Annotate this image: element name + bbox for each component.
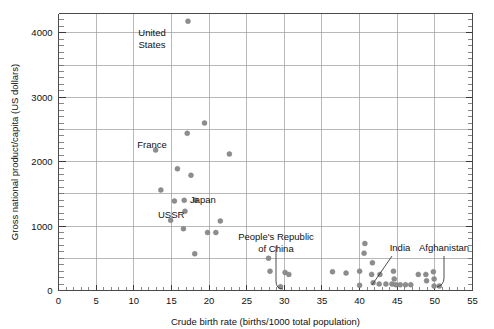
annotation-text-line: Afghanistan (419, 242, 469, 253)
annotation-label: India (390, 242, 411, 253)
annotation-text-line: States (139, 39, 166, 50)
x-tick-label: 10 (128, 295, 139, 306)
data-point (266, 256, 271, 261)
x-tick-label: 35 (317, 295, 328, 306)
data-point (357, 283, 362, 288)
data-point (175, 166, 180, 171)
data-point (185, 131, 190, 136)
data-point (172, 198, 177, 203)
x-axis-title: Crude birth rate (births/1000 total popu… (171, 316, 360, 327)
data-point (182, 198, 187, 203)
data-point (423, 272, 428, 277)
data-point (188, 173, 193, 178)
x-tick-label: 30 (279, 295, 290, 306)
y-tick-label: 4000 (31, 27, 52, 38)
x-tick-label: 45 (392, 295, 403, 306)
data-point (362, 251, 367, 256)
data-point (431, 269, 436, 274)
x-tick-label: 15 (166, 295, 177, 306)
data-point (403, 282, 408, 287)
data-point (383, 282, 388, 287)
y-tick-label: 2000 (31, 156, 52, 167)
data-point (213, 230, 218, 235)
data-point (408, 282, 413, 287)
annotation-text-line: USSR (158, 209, 185, 220)
annotation-label: People's Republicof China (238, 231, 314, 254)
plot-canvas: 051015202530354045505501000200030004000 … (0, 0, 494, 329)
data-point (393, 282, 398, 287)
annotation-text-line: France (137, 139, 167, 150)
annotation-label: UnitedStates (138, 27, 165, 50)
y-tick-label: 1000 (31, 221, 52, 232)
x-tick-label: 0 (56, 295, 61, 306)
data-point (357, 269, 362, 274)
annotation-leader-line (437, 256, 444, 287)
x-tick-label: 55 (467, 295, 478, 306)
x-tick-label: 5 (93, 295, 98, 306)
data-point (432, 283, 437, 288)
x-tick-label: 25 (241, 295, 252, 306)
data-point (398, 282, 403, 287)
annotation-label: France (137, 139, 167, 150)
data-point (416, 272, 421, 277)
y-axis-title: Gross national product/capita (US dollar… (9, 64, 20, 240)
x-tick-label: 20 (204, 295, 215, 306)
data-point (432, 276, 437, 281)
annotation-label: Afghanistan (419, 242, 469, 253)
data-point (330, 269, 335, 274)
x-tick-label: 40 (354, 295, 365, 306)
annotation-text-line: India (390, 242, 411, 253)
data-point (181, 226, 186, 231)
data-point (227, 151, 232, 156)
y-tick-label: 3000 (31, 92, 52, 103)
axis-tick-labels: 051015202530354045505501000200030004000 (31, 27, 477, 305)
data-point (192, 251, 197, 256)
data-point (362, 241, 367, 246)
data-point (392, 276, 397, 281)
data-point (202, 121, 207, 126)
data-point (391, 269, 396, 274)
data-point (370, 260, 375, 265)
annotation-text-line: of China (258, 243, 294, 254)
data-point (344, 271, 349, 276)
y-tick-label: 0 (47, 285, 52, 296)
annotation-leader-line (372, 256, 392, 285)
data-point (377, 282, 382, 287)
data-point (369, 272, 374, 277)
data-point (268, 269, 273, 274)
data-point (205, 230, 210, 235)
scatter-chart: 051015202530354045505501000200030004000 … (0, 0, 494, 329)
data-point (286, 272, 291, 277)
point-annotations: UnitedStatesFranceJapanUSSRPeople's Repu… (137, 27, 469, 254)
data-point (158, 188, 163, 193)
annotation-label: USSR (158, 209, 185, 220)
data-point (218, 218, 223, 223)
data-point (424, 278, 429, 283)
annotation-text-line: People's Republic (238, 231, 314, 242)
annotation-label: Japan (190, 194, 216, 205)
x-tick-label: 50 (430, 295, 441, 306)
annotation-text-line: Japan (190, 194, 216, 205)
data-point (185, 19, 190, 24)
annotation-text-line: United (138, 27, 165, 38)
